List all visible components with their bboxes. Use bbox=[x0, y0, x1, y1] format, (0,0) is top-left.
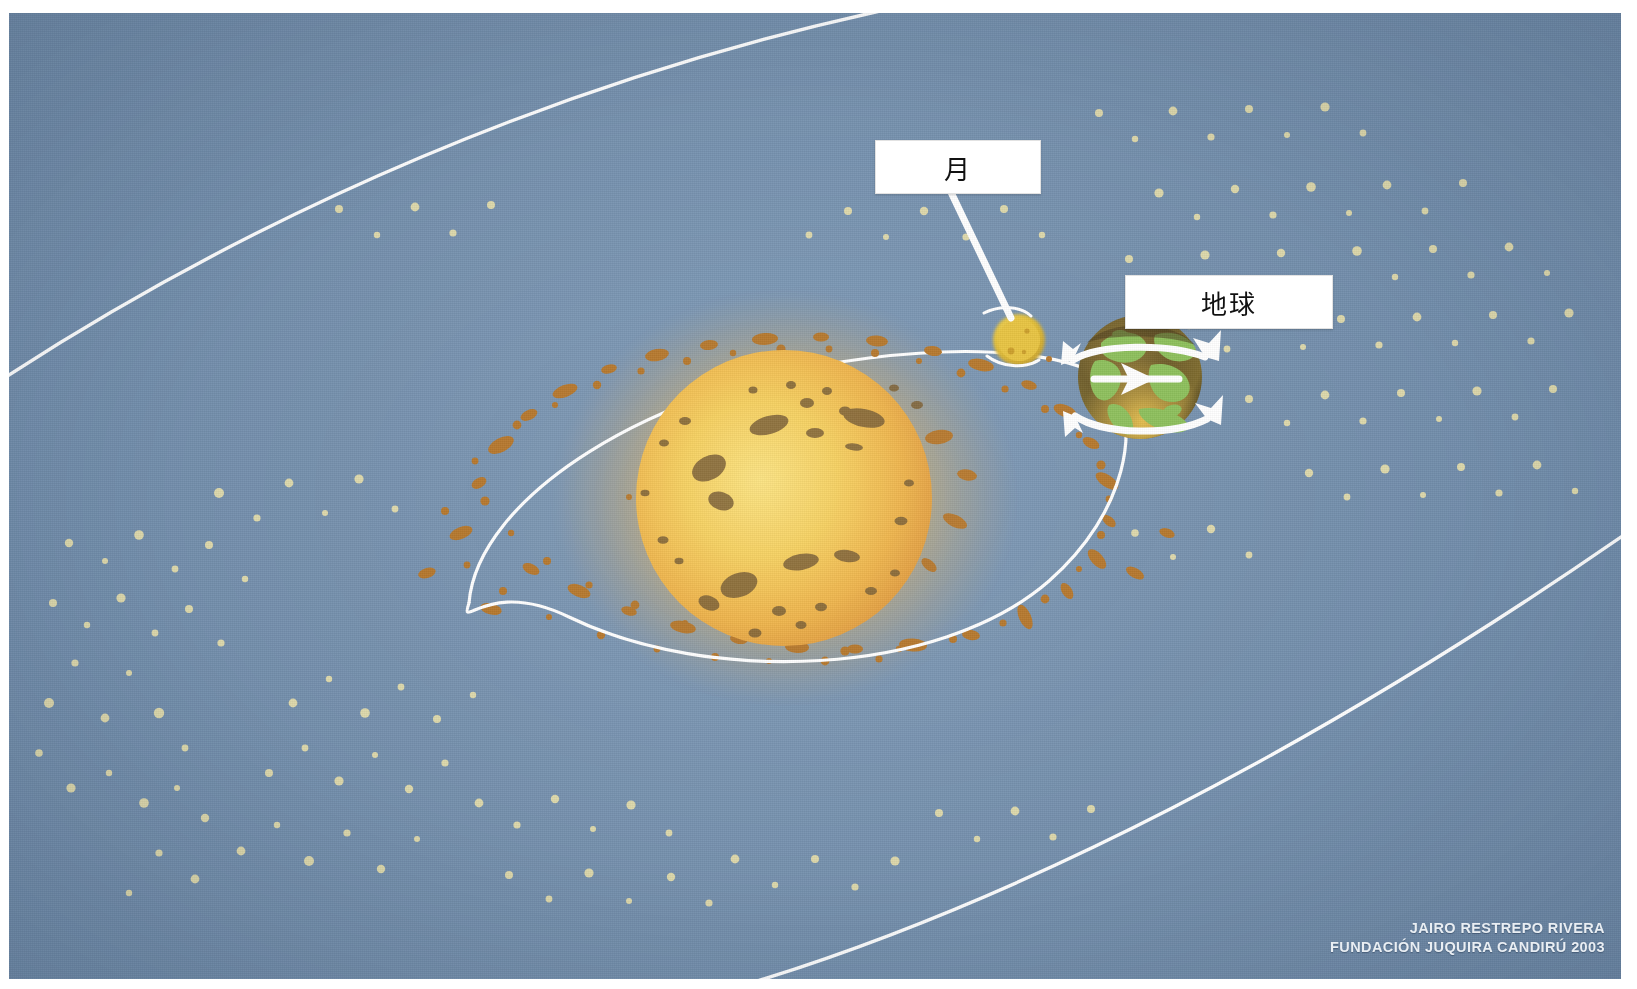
illustration-plate: 月 地球 JAIRO RESTREPO RIVERA FUNDACIÓN JUQ… bbox=[9, 13, 1621, 979]
label-earth-text: 地球 bbox=[1201, 284, 1257, 321]
moon bbox=[984, 308, 1045, 366]
credit-author: JAIRO RESTREPO RIVERA bbox=[1330, 919, 1605, 938]
label-moon-text: 月 bbox=[944, 149, 972, 186]
scene-graphics bbox=[9, 13, 1621, 979]
credit-block: JAIRO RESTREPO RIVERA FUNDACIÓN JUQUIRA … bbox=[1330, 919, 1605, 957]
cutoff-header-text bbox=[14, 0, 494, 11]
sun bbox=[636, 350, 932, 646]
label-earth: 地球 bbox=[1125, 275, 1333, 329]
label-moon: 月 bbox=[875, 140, 1041, 194]
figure-canvas: 月 地球 JAIRO RESTREPO RIVERA FUNDACIÓN JUQ… bbox=[0, 0, 1637, 989]
credit-foundation: FUNDACIÓN JUQUIRA CANDIRÚ 2003 bbox=[1330, 938, 1605, 957]
